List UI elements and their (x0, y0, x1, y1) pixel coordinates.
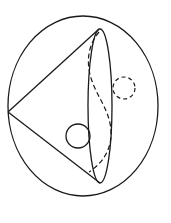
dashed-small-circle (113, 77, 135, 99)
cone-side-top-line (8, 29, 99, 112)
geometry-figure (0, 0, 171, 223)
figure-canvas (0, 0, 171, 223)
cone-base-ellipse (88, 29, 112, 183)
cone-side-bottom-line (8, 112, 100, 183)
solid-small-circle (66, 124, 90, 148)
